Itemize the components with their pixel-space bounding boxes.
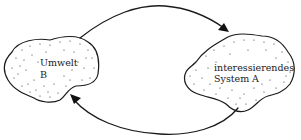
system-environment-diagram: Umwelt B interessierendes — [0, 0, 301, 140]
node-umwelt-b: Umwelt B — [5, 37, 99, 103]
system-label-line2: System — [214, 73, 249, 84]
environment-label: Umwelt — [40, 57, 78, 68]
upper-arc — [80, 6, 224, 38]
arrow-system-to-environment — [70, 94, 238, 134]
environment-blob-shape — [5, 37, 99, 103]
environment-stipple — [11, 40, 94, 97]
node-system-a: interessierendes System A — [185, 34, 295, 112]
system-tag: A — [251, 73, 259, 84]
arrow-environment-to-system — [80, 6, 229, 38]
system-label: interessierendes — [214, 62, 294, 73]
environment-tag: B — [40, 69, 47, 80]
lower-arc — [74, 100, 238, 134]
arrowhead-icon — [70, 94, 81, 104]
